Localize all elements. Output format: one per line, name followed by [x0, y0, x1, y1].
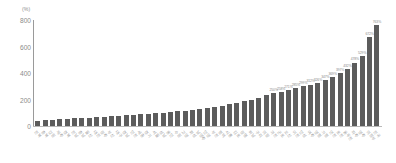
bar-series: 250%258%271%285%299%312%326%347%369%397%…: [34, 20, 382, 126]
x-label-slot: 하남: [248, 129, 255, 163]
bar-slot: 397%: [336, 20, 343, 126]
bar-slot: [182, 20, 189, 126]
bar: [168, 112, 173, 126]
bar: [87, 118, 92, 126]
x-label-slot: 의왕: [263, 129, 270, 163]
x-label-slot: 광명: [241, 129, 248, 163]
bar: [293, 88, 298, 126]
bar-slot: [174, 20, 181, 126]
bar-slot: [64, 20, 71, 126]
bar: [57, 119, 62, 126]
bar-slot: [41, 20, 48, 126]
bar: [212, 107, 217, 126]
x-label-slot: 시흥: [226, 129, 233, 163]
x-label-slot: 안성: [300, 129, 307, 163]
bar-slot: 369%: [329, 20, 336, 126]
x-label-slot: 의정부: [366, 129, 373, 163]
bar-slot: [86, 20, 93, 126]
bar-slot: 312%: [307, 20, 314, 126]
x-label-slot: 이천: [292, 129, 299, 163]
bar: [94, 117, 99, 126]
x-label-slot: 경남: [123, 129, 130, 163]
x-label-slot: 동두천: [344, 129, 351, 163]
bar-slot: 299%: [300, 20, 307, 126]
bar-slot: [152, 20, 159, 126]
y-tick-label: 200: [20, 96, 31, 103]
bar-slot: 432%: [344, 20, 351, 126]
x-label-slot: 고양: [182, 129, 189, 163]
x-label-slot: 인천: [130, 129, 137, 163]
bar-slot: [196, 20, 203, 126]
bar: [205, 108, 210, 126]
bar-slot: [248, 20, 255, 126]
bar: [286, 90, 291, 126]
bar: [124, 115, 129, 126]
bar: [271, 93, 276, 126]
x-label-slot: 대전: [93, 129, 100, 163]
bar-slot: [100, 20, 107, 126]
bar: [338, 73, 343, 126]
x-label-slot: 강원: [49, 129, 56, 163]
x-label-slot: 제주: [56, 129, 63, 163]
x-label-slot: 연천: [329, 129, 336, 163]
x-label-slot: 김포: [233, 129, 240, 163]
x-label-slot: 전남: [71, 129, 78, 163]
bar-slot: [130, 20, 137, 126]
bar: [249, 100, 254, 126]
bar: [146, 114, 151, 126]
bar-slot: 258%: [277, 20, 284, 126]
x-label-slot: 양주: [359, 129, 366, 163]
x-axis-line: [33, 126, 382, 127]
bar-slot: [145, 20, 152, 126]
bar: [161, 113, 166, 126]
bar: [65, 119, 70, 126]
bar: [72, 118, 77, 126]
bar: [116, 116, 121, 126]
x-label-slot: 경북: [64, 129, 71, 163]
bar: [360, 56, 365, 126]
y-axis-tick-labels: 0200400600800: [0, 0, 31, 163]
bar-slot: 478%: [351, 20, 358, 126]
bar-slot: [71, 20, 78, 126]
bar-slot: [49, 20, 56, 126]
bar-slot: [137, 20, 144, 126]
x-label-slot: 여주: [307, 129, 314, 163]
bar: [242, 101, 247, 126]
bar-slot: [115, 20, 122, 126]
bar: [190, 110, 195, 126]
bar-slot: 763%: [373, 20, 380, 126]
x-label-slot: 용인: [167, 129, 174, 163]
y-tick-label: 600: [20, 43, 31, 50]
bar: [183, 111, 188, 127]
x-label-slot: 울산: [86, 129, 93, 163]
bar-slot: [34, 20, 41, 126]
x-label-slot: 오산: [285, 129, 292, 163]
x-label-slot: 화성: [189, 129, 196, 163]
bar-slot: [93, 20, 100, 126]
bar-slot: [78, 20, 85, 126]
y-tick-label: 800: [20, 17, 31, 24]
bar-slot: [204, 20, 211, 126]
bar-slot: [108, 20, 115, 126]
bar: [323, 80, 328, 126]
bar: [138, 114, 143, 126]
bar: [256, 98, 261, 126]
bar: [345, 69, 350, 126]
bar: [330, 77, 335, 126]
bar-slot: [263, 20, 270, 126]
y-tick-label: 0: [27, 123, 31, 130]
bar-slot: [189, 20, 196, 126]
x-axis-category-labels: 전북충북강원제주경북전남충남울산대전광주부산대구경남인천세종경기서울성남용인수원…: [34, 129, 382, 163]
bar: [374, 25, 379, 126]
x-category-label: 전국: [372, 129, 382, 139]
plot-area: 250%258%271%285%299%312%326%347%369%397%…: [34, 20, 382, 126]
bar: [175, 111, 180, 126]
bar-slot: 326%: [314, 20, 321, 126]
bar: [197, 109, 202, 126]
bar-slot: [241, 20, 248, 126]
bar-slot: [167, 20, 174, 126]
bar-slot: 250%: [270, 20, 277, 126]
bar: [50, 120, 55, 126]
x-label-slot: 전북: [34, 129, 41, 163]
bar-slot: 672%: [366, 20, 373, 126]
